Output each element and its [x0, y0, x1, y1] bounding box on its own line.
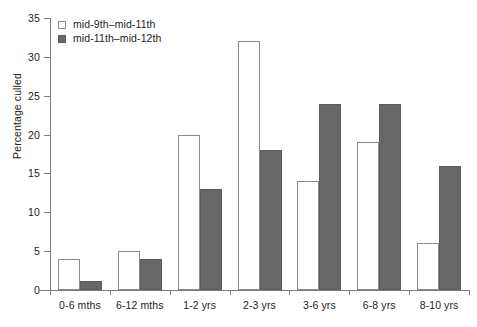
- bar: [379, 104, 401, 291]
- y-axis-tick-label: 20: [0, 130, 40, 141]
- x-axis-category-label: 2-3 yrs: [230, 300, 290, 311]
- plot-area: [50, 18, 469, 290]
- y-axis-tick: 10: [0, 212, 50, 213]
- x-axis-tick-mark: [50, 290, 51, 295]
- legend-swatch-icon: [58, 35, 66, 43]
- y-axis-tick-label: 5: [0, 246, 40, 257]
- bar-chart: Percentage culled 05101520253035 0-6 mth…: [0, 0, 477, 327]
- bar: [178, 135, 200, 290]
- y-axis-tick-label: 35: [0, 13, 40, 24]
- legend-item: mid-9th–mid-11th: [58, 18, 161, 31]
- bar: [118, 251, 140, 290]
- x-axis-tick-mark: [409, 290, 410, 295]
- y-axis-tick: 20: [0, 135, 50, 136]
- legend: mid-9th–mid-11thmid-11th–mid-12th: [58, 18, 161, 46]
- y-axis-tick: 5: [0, 251, 50, 252]
- x-axis-category-label: 6-8 yrs: [349, 300, 409, 311]
- bar: [238, 41, 260, 290]
- bar: [357, 142, 379, 290]
- legend-label: mid-9th–mid-11th: [73, 19, 156, 30]
- x-axis-tick-mark: [170, 290, 171, 295]
- y-axis-tick: 35: [0, 18, 50, 19]
- bar: [439, 166, 461, 290]
- y-axis-tick: 15: [0, 173, 50, 174]
- y-axis-tick-label: 30: [0, 52, 40, 63]
- x-axis-tick-mark: [289, 290, 290, 295]
- bar: [58, 259, 80, 290]
- x-axis-category-label: 1-2 yrs: [170, 300, 230, 311]
- x-axis-tick-mark: [110, 290, 111, 295]
- x-axis-category-label: 0-6 mths: [50, 300, 110, 311]
- y-axis-tick: 30: [0, 57, 50, 58]
- y-axis-tick: 25: [0, 96, 50, 97]
- x-axis-tick-mark: [469, 290, 470, 295]
- legend-label: mid-11th–mid-12th: [73, 33, 161, 44]
- y-axis-tick-label: 0: [0, 285, 40, 296]
- x-axis-category-label: 8-10 yrs: [409, 300, 469, 311]
- bar: [260, 150, 282, 290]
- bar: [200, 189, 222, 290]
- y-axis-tick-label: 15: [0, 168, 40, 179]
- x-axis-category-label: 3-6 yrs: [289, 300, 349, 311]
- bar: [80, 281, 102, 290]
- legend-swatch-icon: [58, 21, 66, 29]
- bar: [417, 243, 439, 290]
- legend-item: mid-11th–mid-12th: [58, 32, 161, 45]
- x-axis-line: [39, 290, 469, 291]
- x-axis-category-label: 6-12 mths: [110, 300, 170, 311]
- x-axis-tick-mark: [230, 290, 231, 295]
- bar: [319, 104, 341, 291]
- bar: [140, 259, 162, 290]
- bar: [297, 181, 319, 290]
- x-axis-tick-mark: [349, 290, 350, 295]
- y-axis-tick-label: 10: [0, 207, 40, 218]
- y-axis-tick-label: 25: [0, 91, 40, 102]
